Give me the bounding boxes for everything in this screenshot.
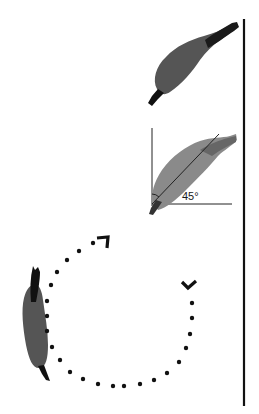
path-dot: [184, 346, 188, 350]
lower-animal-tail: [38, 365, 50, 381]
rotation-path: [45, 241, 194, 388]
path-dot: [122, 384, 126, 388]
upper-animal-pose: [148, 22, 239, 106]
path-dot: [96, 382, 100, 386]
upper-animal-tail: [148, 89, 164, 106]
path-dot: [77, 249, 81, 253]
path-dot: [45, 314, 49, 318]
annotated-animal-pose: 45°: [149, 128, 237, 215]
path-dot: [49, 283, 53, 287]
path-dot: [45, 299, 49, 303]
end-arrow-marker: [182, 281, 196, 288]
path-dot: [190, 301, 194, 305]
figure-canvas: 45°: [0, 0, 259, 414]
path-dot: [111, 384, 115, 388]
path-dot: [50, 345, 54, 349]
path-dot: [190, 316, 194, 320]
angle-label: 45°: [182, 190, 199, 202]
path-dot: [65, 258, 69, 262]
path-dot: [152, 378, 156, 382]
path-dot: [91, 241, 95, 245]
path-dot: [55, 270, 59, 274]
path-dot: [138, 382, 142, 386]
path-dot: [58, 358, 62, 362]
path-dot: [177, 360, 181, 364]
lower-animal-pose: [23, 266, 50, 381]
start-arrow-marker: [97, 237, 108, 248]
path-dot: [165, 371, 169, 375]
path-dot: [188, 332, 192, 336]
path-dot: [81, 377, 85, 381]
path-dot: [45, 329, 49, 333]
path-dot: [68, 370, 72, 374]
